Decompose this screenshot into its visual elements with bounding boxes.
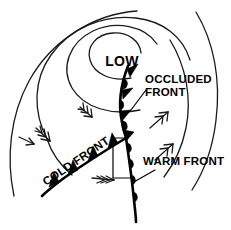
- weather-front-diagram: LOW OCCLUDED FRONT WARM FRONT COLD FRONT: [0, 0, 231, 230]
- low-pressure-label: LOW: [105, 53, 139, 69]
- occluded-front-label-line1: OCCLUDED: [145, 73, 212, 85]
- diagram-background: [0, 0, 231, 230]
- weather-map-svg: LOW OCCLUDED FRONT WARM FRONT COLD FRONT: [0, 0, 231, 230]
- occluded-front-label-line2: FRONT: [145, 86, 186, 98]
- warm-front-label: WARM FRONT: [143, 155, 224, 167]
